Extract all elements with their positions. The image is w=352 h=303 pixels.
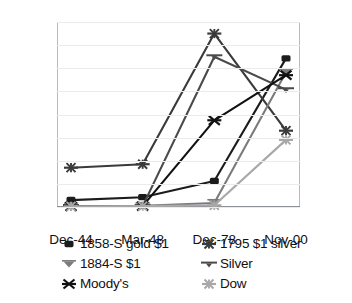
legend-row: Moody'sDow	[58, 276, 348, 296]
legend-item[interactable]: Dow	[198, 276, 348, 292]
series-point-marker	[279, 126, 293, 135]
legend-label: Dow	[220, 276, 246, 292]
gridline	[57, 161, 300, 162]
legend-label: 1884-S $1	[80, 256, 141, 272]
series-line	[71, 75, 286, 206]
series-point-marker	[207, 116, 221, 125]
gridline	[57, 207, 300, 208]
gridline	[57, 184, 300, 185]
plot-wrapper: 0400080001200016000200002400028000320000…	[0, 0, 352, 232]
series-point-marker	[207, 29, 221, 38]
dash-marker-icon	[198, 256, 220, 272]
series-line	[71, 140, 286, 207]
series-line	[71, 72, 286, 206]
x-cross-marker-icon	[58, 276, 80, 292]
legend-item[interactable]: Silver	[198, 256, 348, 272]
gridline	[57, 115, 300, 116]
legend-item[interactable]: 1884-S $1	[58, 256, 198, 272]
asterisk-marker-icon	[198, 276, 220, 292]
square-marker-icon	[58, 236, 80, 252]
chart-legend: 1858-S gold $11795 $1 silver1884-S $1Sil…	[58, 236, 348, 300]
legend-label: 1858-S gold $1	[80, 236, 169, 252]
legend-label: Moody's	[80, 276, 128, 292]
legend-item[interactable]: 1795 $1 silver	[198, 236, 348, 252]
triangle-down-marker-icon	[58, 256, 80, 272]
legend-row: 1858-S gold $11795 $1 silver	[58, 236, 348, 256]
plot-area: 0400080001200016000200002400028000320000…	[57, 22, 300, 207]
gridline	[57, 68, 300, 69]
series-point-marker	[282, 55, 291, 61]
gridline	[57, 138, 300, 139]
series-line	[71, 34, 286, 168]
gridline	[57, 91, 300, 92]
starburst-marker-icon	[198, 236, 220, 252]
series-point-marker	[64, 163, 78, 172]
legend-item[interactable]: Moody's	[58, 276, 198, 292]
gridline	[57, 22, 300, 23]
legend-row: 1884-S $1Silver	[58, 256, 348, 276]
legend-label: 1795 $1 silver	[220, 236, 301, 252]
line-chart: 0400080001200016000200002400028000320000…	[0, 0, 352, 303]
legend-label: Silver	[220, 256, 253, 272]
gridline	[57, 45, 300, 46]
legend-item[interactable]: 1858-S gold $1	[58, 236, 198, 252]
